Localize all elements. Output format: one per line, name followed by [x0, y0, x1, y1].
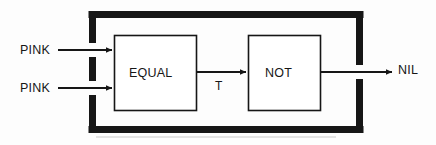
- not-block-label: NOT: [265, 66, 292, 80]
- equal-block-label: EQUAL: [129, 66, 172, 80]
- scan-artifact: [96, 136, 336, 138]
- input-label-pink-1: PINK: [20, 43, 50, 57]
- output-label-nil: NIL: [398, 63, 418, 77]
- diagram-canvas: [0, 0, 436, 145]
- intermediate-signal-label-t: T: [215, 79, 223, 93]
- block-diagram: PINK PINK EQUAL NOT T NIL: [0, 0, 436, 145]
- input-label-pink-2: PINK: [20, 81, 50, 95]
